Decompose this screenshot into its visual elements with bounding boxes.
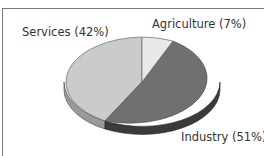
label-services: Services (42%) xyxy=(22,25,109,39)
label-industry: Industry (51%) xyxy=(181,130,264,144)
pie-chart: Services (42%) Agriculture (7%) Industry… xyxy=(0,0,264,156)
label-agriculture: Agriculture (7%) xyxy=(152,17,246,31)
